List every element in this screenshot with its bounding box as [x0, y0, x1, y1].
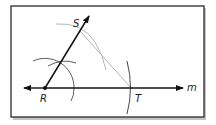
point-r: [43, 86, 47, 90]
label-r: R: [40, 93, 47, 104]
label-m: m: [187, 82, 197, 93]
label-s: S: [73, 18, 80, 29]
label-t: T: [135, 93, 142, 104]
geometry-diagram: S R T m: [0, 0, 216, 125]
